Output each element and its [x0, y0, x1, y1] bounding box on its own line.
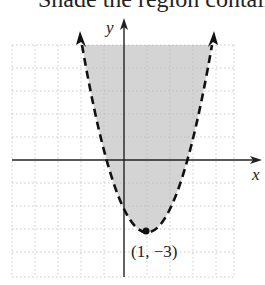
parabola-graph: y x (1, −3) — [0, 0, 265, 285]
vertex-point — [143, 228, 150, 235]
y-axis-label: y — [104, 18, 114, 37]
vertex-label: (1, −3) — [131, 242, 177, 261]
x-axis-label: x — [251, 165, 260, 184]
